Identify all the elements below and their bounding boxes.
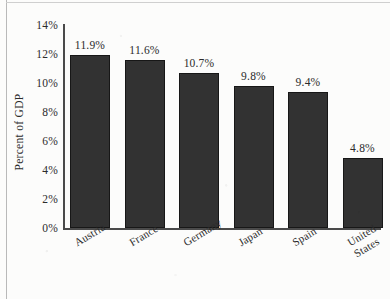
bar-value-label: 9.4% <box>278 76 338 88</box>
y-tick-label: 10% <box>36 77 58 89</box>
bar <box>125 60 165 228</box>
bar <box>234 86 274 228</box>
page-border-top <box>6 2 390 3</box>
y-tick-label: 14% <box>36 19 58 31</box>
bar-value-label: 4.8% <box>333 142 390 154</box>
bar <box>343 158 383 228</box>
y-tick-label: 8% <box>42 106 58 118</box>
bar-value-label: 9.8% <box>224 70 284 82</box>
bar-chart-figure: Percent of GDP 0%2%4%6%8%10%12%14% 11.9%… <box>0 0 390 299</box>
x-axis-line <box>63 228 381 230</box>
bar-value-label: 11.6% <box>115 44 175 56</box>
y-tick-label: 4% <box>42 164 58 176</box>
bar-value-label: 10.7% <box>169 57 229 69</box>
y-axis-tick-labels: 0%2%4%6%8%10%12%14% <box>0 0 58 299</box>
y-tick-label: 0% <box>42 222 58 234</box>
y-tick-label: 2% <box>42 193 58 205</box>
y-tick-label: 6% <box>42 135 58 147</box>
bar <box>179 73 219 228</box>
y-tick-label: 12% <box>36 48 58 60</box>
bar <box>70 55 110 228</box>
y-axis-line <box>63 24 65 229</box>
bar-value-label: 11.9% <box>60 39 120 51</box>
bar <box>288 92 328 228</box>
